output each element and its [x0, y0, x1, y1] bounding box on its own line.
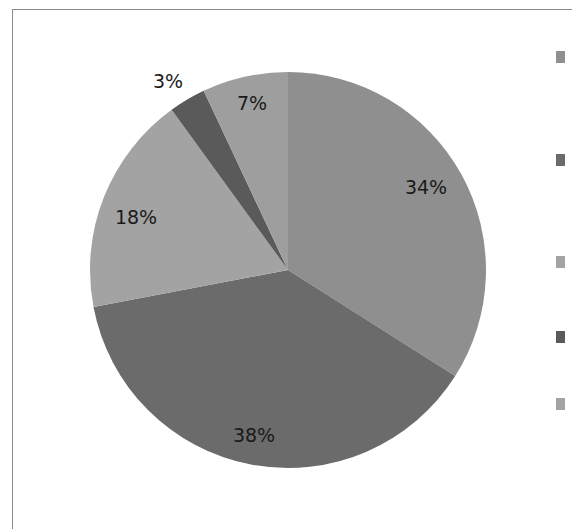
- legend-marker-3: [556, 256, 565, 268]
- legend-marker-1: [556, 51, 565, 63]
- data-label-1: 34%: [405, 176, 447, 198]
- legend-marker-5: [556, 398, 565, 410]
- legend-marker-4: [556, 331, 565, 343]
- data-label-4: 3%: [153, 70, 183, 92]
- data-label-2: 38%: [233, 424, 275, 446]
- data-label-5: 7%: [237, 92, 267, 114]
- legend-marker-2: [556, 154, 565, 166]
- data-label-3: 18%: [115, 206, 157, 228]
